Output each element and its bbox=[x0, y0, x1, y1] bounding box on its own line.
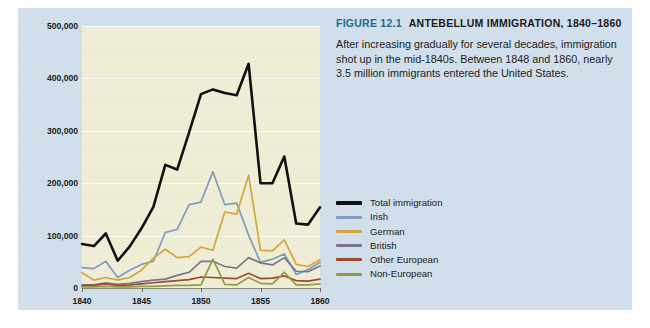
x-axis-tick-label: 1860 bbox=[310, 296, 329, 306]
x-axis-tick-label: 1845 bbox=[132, 296, 151, 306]
legend-item-label: British bbox=[370, 241, 397, 251]
y-axis-tick-label: 300,000 bbox=[20, 126, 78, 136]
x-axis-tick-label: 1855 bbox=[251, 296, 270, 306]
legend-swatch-icon bbox=[336, 258, 362, 261]
caption-text: After increasing gradually for several d… bbox=[336, 37, 622, 81]
legend-item-label: German bbox=[370, 227, 405, 237]
legend-item: British bbox=[336, 239, 616, 253]
y-axis-tick-label: 400,000 bbox=[20, 73, 78, 83]
y-axis-tick-label: 0 bbox=[20, 283, 78, 293]
legend-item-label: Non-European bbox=[370, 269, 432, 279]
legend-item-label: Irish bbox=[370, 212, 388, 222]
x-axis-labels: 18401845185018551860 bbox=[82, 292, 320, 308]
plot-area bbox=[82, 26, 320, 288]
series-lines bbox=[82, 26, 320, 288]
x-axis-tick bbox=[142, 288, 143, 292]
figure-number: FIGURE 12.1 bbox=[336, 17, 402, 29]
x-axis-tick bbox=[261, 288, 262, 292]
legend-item: Total immigration bbox=[336, 196, 616, 210]
legend-swatch-icon bbox=[336, 244, 362, 247]
series-line bbox=[82, 175, 320, 280]
x-axis-tick-label: 1850 bbox=[191, 296, 210, 306]
legend-item: Irish bbox=[336, 210, 616, 224]
legend-swatch-icon bbox=[336, 273, 362, 276]
legend-item-label: Total immigration bbox=[370, 198, 443, 208]
legend-item: German bbox=[336, 224, 616, 238]
x-axis-tick bbox=[82, 288, 83, 292]
legend-swatch-icon bbox=[336, 230, 362, 233]
x-axis-tick bbox=[320, 288, 321, 292]
figure-caption: FIGURE 12.1ANTEBELLUM IMMIGRATION, 1840–… bbox=[336, 16, 622, 81]
figure-title: ANTEBELLUM IMMIGRATION, 1840–1860 bbox=[409, 17, 622, 29]
caption-heading: FIGURE 12.1ANTEBELLUM IMMIGRATION, 1840–… bbox=[336, 16, 622, 30]
legend-swatch-icon bbox=[336, 216, 362, 219]
series-line bbox=[82, 259, 320, 287]
legend-swatch-icon bbox=[336, 201, 362, 206]
x-axis-tick bbox=[201, 288, 202, 292]
y-axis-tick-label: 500,000 bbox=[20, 21, 78, 31]
x-axis-tick-label: 1840 bbox=[72, 296, 91, 306]
y-axis-tick-label: 100,000 bbox=[20, 231, 78, 241]
series-line bbox=[82, 64, 320, 261]
legend-item: Non-European bbox=[336, 267, 616, 281]
y-axis-tick-label: 200,000 bbox=[20, 178, 78, 188]
chart-legend: Total immigrationIrishGermanBritishOther… bbox=[336, 196, 616, 281]
legend-item: Other European bbox=[336, 253, 616, 267]
figure-screenshot: 0100,000200,000300,000400,000500,000 184… bbox=[0, 0, 650, 328]
y-axis-labels: 0100,000200,000300,000400,000500,000 bbox=[18, 26, 78, 288]
legend-item-label: Other European bbox=[370, 255, 438, 265]
